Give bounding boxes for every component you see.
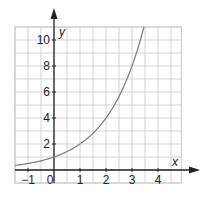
x-tick-label: 1	[77, 173, 84, 187]
x-axis-label: x	[171, 155, 179, 169]
chart: −101234246810 x y	[0, 0, 206, 198]
tick-labels: −101234246810	[21, 33, 162, 187]
y-tick-label: 10	[37, 33, 51, 47]
y-tick-label: 2	[43, 137, 50, 151]
exponential-curve	[15, 27, 144, 165]
x-tick-label: 4	[155, 173, 162, 187]
y-tick-label: 4	[43, 111, 50, 125]
x-tick-label: 3	[129, 173, 136, 187]
grid	[15, 27, 181, 183]
x-tick-label: 2	[103, 173, 110, 187]
y-tick-label: 8	[43, 59, 50, 73]
y-axis-arrow-icon	[51, 8, 58, 19]
x-tick-label: 0	[47, 173, 54, 187]
x-axis-arrow-icon	[189, 167, 200, 174]
y-tick-label: 6	[43, 85, 50, 99]
y-axis-label: y	[58, 25, 66, 39]
x-tick-label: −1	[21, 173, 35, 187]
